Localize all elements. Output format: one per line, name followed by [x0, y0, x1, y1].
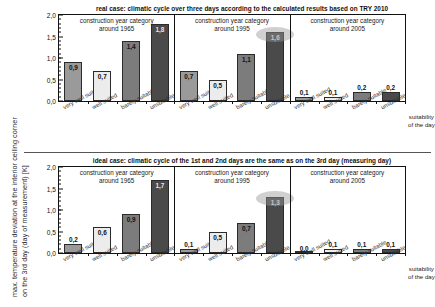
y-tick-minor: [59, 66, 61, 67]
group-header: construction year categoryaround 1995: [174, 17, 289, 33]
y-tick-mark: [59, 101, 63, 102]
x-axis-title-line2: of the day: [408, 273, 435, 281]
bar-value-label: 0,1: [386, 241, 395, 248]
y-tick-minor: [59, 83, 61, 84]
chart-panel-real-case: real case: climatic cycle over three day…: [28, 4, 431, 152]
y-tick-label: 0,5: [47, 228, 59, 235]
y-tick-minor: [59, 214, 61, 215]
plot-area-ideal-case: 0,00,51,01,52,0construction year categor…: [58, 166, 406, 254]
y-axis-label-line1: max. temperature deviation at the interi…: [10, 117, 19, 297]
y-tick-minor: [59, 53, 61, 54]
y-tick-mark: [59, 231, 63, 232]
y-tick-minor: [59, 227, 61, 228]
x-axis-title: suitabilityof the day: [408, 265, 435, 280]
x-tick-mark: [347, 101, 348, 104]
group-header-line2: around 2005: [290, 25, 405, 33]
bar-value-label: 0,5: [213, 234, 222, 241]
x-tick-mark: [117, 101, 118, 104]
y-tick-mark: [59, 253, 63, 254]
group-header-line1: construction year category: [59, 169, 174, 177]
y-tick-minor: [59, 45, 61, 46]
group-header-line2: around 1995: [174, 177, 289, 185]
x-tick-mark: [405, 101, 406, 104]
bar-value-label: 0,1: [184, 241, 193, 248]
y-tick-minor: [59, 210, 61, 211]
bar-value-label: 0,7: [242, 225, 251, 232]
group-header-line1: construction year category: [290, 17, 405, 25]
bar-unsuitable: [151, 24, 169, 101]
y-tick-minor: [59, 192, 61, 193]
y-tick-minor: [59, 58, 61, 59]
y-tick-minor: [59, 96, 61, 97]
y-tick-minor: [59, 218, 61, 219]
y-tick-minor: [59, 75, 61, 76]
y-tick-label: 0,0: [47, 98, 59, 105]
x-axis-title-line1: suitability: [408, 113, 435, 121]
x-tick-mark: [174, 253, 175, 256]
group-header: construction year categoryaround 2005: [290, 17, 405, 33]
x-tick-mark: [261, 101, 262, 104]
bar-value-label: 0,1: [357, 241, 366, 248]
group-header: construction year categoryaround 2005: [290, 169, 405, 185]
x-tick-mark: [88, 101, 89, 104]
y-tick-minor: [59, 197, 61, 198]
group-header-line1: construction year category: [290, 169, 405, 177]
y-tick-label: 2,0: [47, 12, 59, 19]
x-tick-mark: [203, 253, 204, 256]
y-tick-mark: [59, 36, 63, 37]
y-tick-mark: [59, 15, 63, 16]
x-tick-mark: [319, 101, 320, 104]
y-tick-minor: [59, 244, 61, 245]
bar-value-label: 0,9: [69, 64, 78, 71]
bar-value-label: 0,2: [69, 236, 78, 243]
y-tick-minor: [59, 201, 61, 202]
x-tick-mark: [232, 253, 233, 256]
x-tick-mark: [146, 101, 147, 104]
x-axis-title: suitabilityof the day: [408, 113, 435, 128]
y-tick-label: 0,5: [47, 76, 59, 83]
y-tick-minor: [59, 49, 61, 50]
bar-value-label: 0,9: [127, 216, 136, 223]
group-header-line1: construction year category: [174, 17, 289, 25]
plot-area-real-case: 0,00,51,01,52,0construction year categor…: [58, 14, 406, 102]
y-tick-minor: [59, 222, 61, 223]
y-tick-label: 1,5: [47, 185, 59, 192]
group-header-line1: construction year category: [174, 169, 289, 177]
y-tick-mark: [59, 79, 63, 80]
chart-panel-ideal-case: ideal case: climatic cycle of the 1st an…: [28, 156, 431, 304]
x-tick-mark: [290, 101, 291, 104]
y-tick-minor: [59, 92, 61, 93]
x-tick-mark: [347, 253, 348, 256]
x-tick-mark: [290, 253, 291, 256]
bar-unsuitable: [151, 180, 169, 253]
group-header-line2: around 2005: [290, 177, 405, 185]
y-tick-minor: [59, 70, 61, 71]
x-tick-mark: [203, 101, 204, 104]
bar-value-label: 1,7: [155, 182, 164, 189]
bar-barely-suitable: [122, 41, 140, 101]
bar-value-label: 1,3: [271, 199, 280, 206]
bar-value-label: 0,7: [98, 73, 107, 80]
chart-title-ideal-case: ideal case: climatic cycle of the 1st an…: [56, 156, 428, 165]
x-tick-mark: [319, 253, 320, 256]
bar-value-label: 0,2: [357, 84, 366, 91]
x-tick-mark: [376, 253, 377, 256]
panel-divider: [24, 152, 431, 153]
y-tick-minor: [59, 88, 61, 89]
y-tick-minor: [59, 40, 61, 41]
x-tick-mark: [174, 101, 175, 104]
x-tick-mark: [261, 253, 262, 256]
x-axis-title-line1: suitability: [408, 265, 435, 273]
bar-value-label: 0,1: [328, 89, 337, 96]
bar-value-label: 1,4: [127, 43, 136, 50]
x-tick-mark: [146, 253, 147, 256]
y-tick-label: 1,0: [47, 55, 59, 62]
y-tick-minor: [59, 240, 61, 241]
bar-value-label: 1,6: [271, 34, 280, 41]
y-tick-minor: [59, 205, 61, 206]
bar-value-label: 0,1: [300, 89, 309, 96]
x-tick-mark: [232, 101, 233, 104]
bar-value-label: 0,6: [98, 229, 107, 236]
x-tick-mark: [405, 253, 406, 256]
group-header: construction year categoryaround 1995: [174, 169, 289, 185]
